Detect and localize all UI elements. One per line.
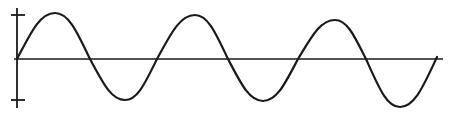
diagram-svg <box>0 0 451 113</box>
sine-wave-diagram <box>0 0 451 113</box>
sine-wave-curve <box>17 13 437 107</box>
